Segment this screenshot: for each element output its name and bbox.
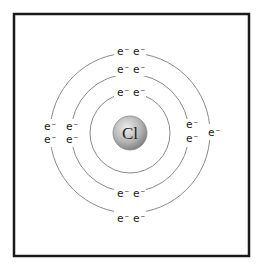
nucleus-symbol: Cl: [122, 124, 138, 143]
electron-shell3: e⁻: [44, 133, 57, 146]
electron-shell2: e⁻: [66, 120, 79, 133]
electron-shell1: e⁻: [133, 86, 146, 99]
electron-shell2: e⁻: [117, 63, 130, 76]
electron-shell2: e⁻: [66, 133, 79, 146]
atom-diagram: Cl e⁻ e⁻ e⁻ e⁻ e⁻ e⁻ e⁻ e⁻ e⁻ e⁻ e⁻ e⁻ e…: [0, 0, 259, 267]
electron-shell2: e⁻: [186, 118, 199, 131]
electron-shell2: e⁻: [117, 187, 130, 200]
electron-shell3: e⁻: [117, 212, 130, 225]
electron-shell3: e⁻: [133, 212, 146, 225]
electron-shell3: e⁻: [117, 45, 130, 58]
electron-shell1: e⁻: [117, 86, 130, 99]
electron-shell2: e⁻: [133, 187, 146, 200]
electron-shell3: e⁻: [208, 126, 221, 139]
electron-shell3: e⁻: [44, 120, 57, 133]
electron-shell3: e⁻: [133, 45, 146, 58]
electron-shell2: e⁻: [186, 132, 199, 145]
electron-shell2: e⁻: [133, 63, 146, 76]
